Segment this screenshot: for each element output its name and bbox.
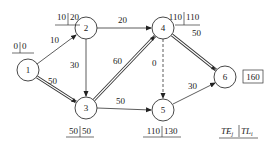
svg-text:0: 0 <box>14 41 19 51</box>
edge-1-3-critical: 50 <box>37 76 76 102</box>
svg-text:110: 110 <box>186 12 200 22</box>
svg-text:4: 4 <box>161 23 166 33</box>
svg-text:2: 2 <box>84 23 89 33</box>
edge-3-5-duration: 50 <box>116 96 126 106</box>
svg-text:50: 50 <box>69 126 79 136</box>
svg-text:1: 1 <box>26 65 31 75</box>
node-4-times: 110 110 <box>169 12 200 25</box>
edge-1-3-duration: 50 <box>48 76 58 86</box>
node-5-times: 110 130 <box>143 126 181 137</box>
edge-1-2-duration: 10 <box>50 35 60 45</box>
svg-text:50: 50 <box>82 126 92 136</box>
svg-text:5: 5 <box>161 105 166 115</box>
node-6: 6 <box>214 66 236 88</box>
svg-text:10: 10 <box>57 12 67 22</box>
svg-text:160: 160 <box>246 72 260 82</box>
svg-text:TEj: TEj <box>221 126 234 137</box>
edge-2-3: 30 <box>70 39 86 96</box>
edge-4-5-dummy: 0 <box>152 39 163 98</box>
node-3-times: 50 50 <box>66 126 94 137</box>
node-5: 5 <box>152 99 174 121</box>
svg-text:20: 20 <box>70 12 80 22</box>
edge-2-3-duration: 30 <box>70 60 80 70</box>
legend-te-tl: TEj TLi <box>219 125 258 138</box>
edge-5-6-duration: 30 <box>188 81 198 91</box>
edge-2-4: 20 <box>97 15 151 28</box>
edge-4-5-duration: 0 <box>152 58 157 68</box>
svg-text:130: 130 <box>164 126 178 136</box>
edge-3-5: 50 <box>97 96 151 110</box>
svg-text:3: 3 <box>84 103 89 113</box>
edge-5-6: 30 <box>173 81 215 104</box>
node-1-times: 0 0 <box>12 41 34 53</box>
edge-4-6-critical: 50 <box>172 28 216 70</box>
edge-3-4-duration: 60 <box>113 56 123 66</box>
svg-text:TLi: TLi <box>241 126 253 137</box>
node-6-end-time: 160 <box>243 70 263 83</box>
svg-text:0: 0 <box>22 41 27 51</box>
edge-2-4-duration: 20 <box>118 15 128 25</box>
svg-text:110: 110 <box>169 12 183 22</box>
node-1: 1 <box>17 59 39 81</box>
svg-text:110: 110 <box>147 126 161 136</box>
edge-4-6-duration: 50 <box>192 28 202 38</box>
svg-text:6: 6 <box>223 72 228 82</box>
node-3: 3 <box>75 97 97 119</box>
edge-3-4-critical: 60 <box>94 36 155 100</box>
network-diagram: 10 50 20 30 60 50 0 50 30 1 <box>0 0 275 148</box>
